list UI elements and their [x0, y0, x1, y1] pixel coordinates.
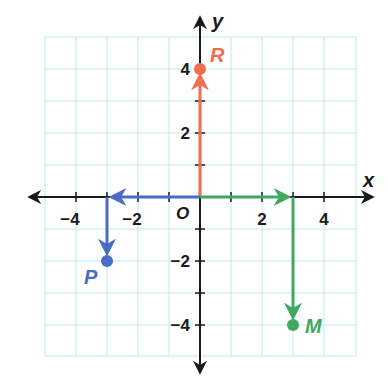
point-r [194, 63, 206, 75]
svg-text:−4: −4 [60, 210, 80, 229]
svg-text:−2: −2 [122, 210, 141, 229]
point-p [101, 255, 113, 267]
svg-text:2: 2 [257, 210, 266, 229]
x-tick-labels: −4 −2 2 4 [60, 210, 329, 229]
point-label-m: M [305, 315, 323, 337]
coordinate-plane: R P M x y O −4 −2 2 4 4 2 −2 −4 [0, 0, 388, 392]
svg-text:−2: −2 [171, 252, 190, 271]
svg-text:2: 2 [181, 124, 190, 143]
point-label-p: P [84, 266, 98, 288]
point-m [287, 319, 299, 331]
svg-text:4: 4 [319, 210, 329, 229]
point-label-r: R [210, 44, 225, 66]
m-path [200, 197, 293, 317]
origin-label: O [176, 204, 189, 223]
svg-text:−4: −4 [171, 316, 191, 335]
x-axis-label: x [362, 169, 375, 191]
svg-text:4: 4 [181, 60, 191, 79]
y-axis-label: y [211, 10, 224, 32]
